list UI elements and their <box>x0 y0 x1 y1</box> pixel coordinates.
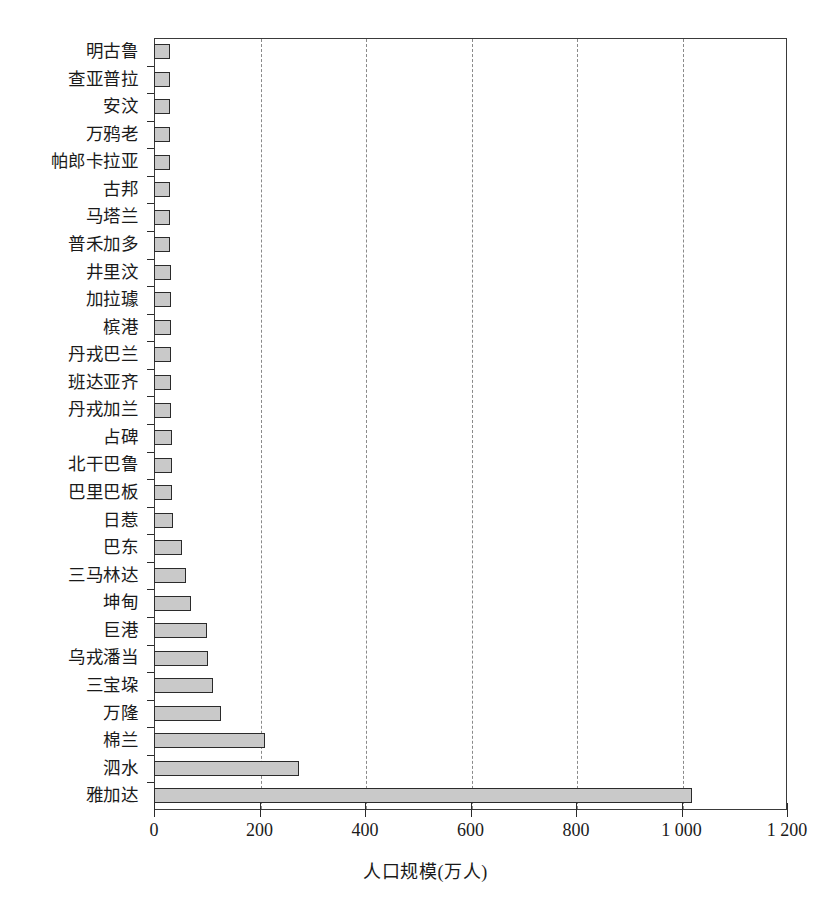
y-tick <box>147 93 154 94</box>
y-label-row: 井里汶 <box>0 259 146 287</box>
bar-row <box>154 93 787 121</box>
population-bar-chart: 明古鲁查亚普拉安汶万鸦老帕郎卡拉亚古邦马塔兰普禾加多井里汶加拉璩槟港丹戎巴兰班达… <box>0 0 835 905</box>
y-axis-label: 三宝垜 <box>86 677 139 695</box>
y-tick <box>147 314 154 315</box>
y-axis-label: 巨港 <box>103 622 138 640</box>
x-tick-200 <box>260 810 261 817</box>
y-tick <box>147 452 154 453</box>
y-label-row: 日惹 <box>0 507 146 535</box>
bar-row <box>154 589 787 617</box>
bar-row <box>154 644 787 672</box>
bar-2 <box>154 99 170 114</box>
bar-14 <box>154 430 172 445</box>
bar-row <box>154 727 787 755</box>
y-label-row: 占碑 <box>0 424 146 452</box>
y-label-row: 三宝垜 <box>0 672 146 700</box>
bar-18 <box>154 540 182 555</box>
x-tick-inner-400 <box>365 803 366 810</box>
y-label-row: 巴里巴板 <box>0 479 146 507</box>
y-label-row: 三马林达 <box>0 562 146 590</box>
x-axis-ticks <box>154 810 787 818</box>
bar-row <box>154 507 787 535</box>
x-tick-label-200: 200 <box>246 821 273 839</box>
y-axis-label: 古邦 <box>103 181 138 199</box>
x-tick-label-1000: 1 000 <box>661 821 702 839</box>
y-tick <box>147 341 154 342</box>
y-axis-label: 马塔兰 <box>86 208 139 226</box>
x-tick-label-0: 0 <box>150 821 159 839</box>
y-axis-label: 安汶 <box>103 98 138 116</box>
y-tick <box>147 672 154 673</box>
x-tick-label-600: 600 <box>457 821 484 839</box>
bar-1 <box>154 72 170 87</box>
y-axis-label: 坤甸 <box>103 594 138 612</box>
y-axis-labels: 明古鲁查亚普拉安汶万鸦老帕郎卡拉亚古邦马塔兰普禾加多井里汶加拉璩槟港丹戎巴兰班达… <box>0 38 146 810</box>
y-tick <box>147 148 154 149</box>
bar-row <box>154 314 787 342</box>
y-tick <box>147 589 154 590</box>
y-label-row: 巴东 <box>0 534 146 562</box>
x-tick-inner-800 <box>576 803 577 810</box>
y-label-row: 丹戎巴兰 <box>0 341 146 369</box>
y-tick <box>147 369 154 370</box>
y-axis-label: 普禾加多 <box>68 236 138 254</box>
y-tick <box>147 782 154 783</box>
bar-row <box>154 231 787 259</box>
y-label-row: 万鸦老 <box>0 121 146 149</box>
y-tick <box>147 755 154 756</box>
y-axis-label: 乌戎潘当 <box>68 649 138 667</box>
bar-3 <box>154 127 170 142</box>
y-label-row: 帕郎卡拉亚 <box>0 148 146 176</box>
y-tick <box>147 700 154 701</box>
bar-25 <box>154 733 265 748</box>
x-tick-inner-1200 <box>787 803 788 810</box>
x-tick-label-1200: 1 200 <box>767 821 808 839</box>
bar-row <box>154 121 787 149</box>
y-label-row: 查亚普拉 <box>0 66 146 94</box>
y-label-row: 雅加达 <box>0 782 146 810</box>
x-axis-title-text: 人口规模(万人) <box>363 857 488 883</box>
x-tick-inner-200 <box>260 803 261 810</box>
bar-9 <box>154 292 171 307</box>
y-axis-label: 丹戎巴兰 <box>68 346 138 364</box>
y-axis-label: 丹戎加兰 <box>68 401 138 419</box>
y-label-row: 泗水 <box>0 755 146 783</box>
y-label-row: 坤甸 <box>0 589 146 617</box>
bar-7 <box>154 237 170 252</box>
bar-11 <box>154 347 171 362</box>
y-label-row: 明古鲁 <box>0 38 146 66</box>
x-axis-tick-labels: 02004006008001 0001 200 <box>0 821 835 849</box>
y-axis-label: 万隆 <box>103 705 138 723</box>
y-axis-label: 班达亚齐 <box>68 374 138 392</box>
bar-row <box>154 286 787 314</box>
y-tick <box>147 727 154 728</box>
x-tick-inner-1000 <box>682 803 683 810</box>
bar-row <box>154 341 787 369</box>
bar-row <box>154 700 787 728</box>
x-tick-inner-600 <box>471 803 472 810</box>
bar-23 <box>154 678 213 693</box>
bar-row <box>154 562 787 590</box>
y-label-row: 加拉璩 <box>0 286 146 314</box>
x-tick-label-800: 800 <box>563 821 590 839</box>
y-tick <box>147 259 154 260</box>
y-tick <box>147 66 154 67</box>
x-axis-title: 人口规模(万人) <box>0 857 835 883</box>
bar-row <box>154 672 787 700</box>
bar-row <box>154 176 787 204</box>
bar-row <box>154 396 787 424</box>
x-tick-inner-0 <box>154 803 155 810</box>
x-tick-1000 <box>682 810 683 817</box>
y-axis-label: 查亚普拉 <box>68 71 138 89</box>
bar-22 <box>154 651 208 666</box>
y-axis-label: 北干巴鲁 <box>68 456 138 474</box>
y-label-row: 巨港 <box>0 617 146 645</box>
bar-row <box>154 617 787 645</box>
y-axis-label: 槟港 <box>103 319 138 337</box>
y-axis-label: 日惹 <box>103 512 138 530</box>
y-axis-label: 帕郎卡拉亚 <box>51 153 139 171</box>
bar-0 <box>154 44 170 59</box>
y-tick <box>147 507 154 508</box>
bar-row <box>154 451 787 479</box>
bar-row <box>154 38 787 66</box>
